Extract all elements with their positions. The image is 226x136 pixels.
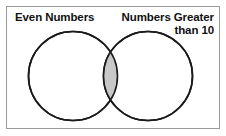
venn-diagram-figure: Even Numbers Numbers Greater than 10 bbox=[0, 0, 226, 136]
right-set-label: Numbers Greater than 10 bbox=[122, 11, 214, 37]
left-set-label: Even Numbers bbox=[15, 11, 94, 24]
